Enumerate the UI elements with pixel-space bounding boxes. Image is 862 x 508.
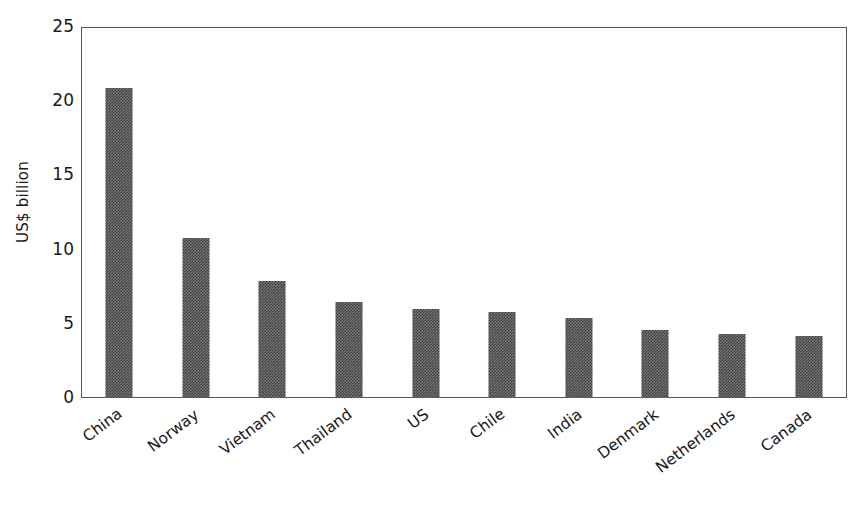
bar[interactable] bbox=[719, 334, 746, 398]
x-tick-label: Netherlands bbox=[653, 406, 738, 476]
x-tick-label: Denmark bbox=[595, 406, 662, 462]
bar-chart: US$ billion 0510152025 ChinaNorwayVietna… bbox=[0, 0, 862, 508]
x-tick-label: Vietnam bbox=[217, 406, 278, 458]
bar[interactable] bbox=[642, 330, 669, 398]
x-tick-label: China bbox=[80, 406, 125, 445]
bar[interactable] bbox=[412, 309, 439, 398]
x-tick-label: India bbox=[545, 406, 585, 442]
x-axis-tick-labels: ChinaNorwayVietnamThailandUSChileIndiaDe… bbox=[0, 0, 862, 110]
y-tick-label: 0 bbox=[0, 389, 74, 406]
x-tick-label: Thailand bbox=[292, 406, 355, 459]
y-tick-label: 10 bbox=[0, 241, 74, 258]
x-tick-label: Canada bbox=[758, 406, 815, 454]
x-tick-label: US bbox=[405, 406, 432, 432]
y-tick-label: 15 bbox=[0, 166, 74, 183]
bar[interactable] bbox=[106, 88, 133, 398]
bar[interactable] bbox=[259, 281, 286, 398]
bar[interactable] bbox=[336, 302, 363, 398]
bar[interactable] bbox=[795, 336, 822, 398]
x-tick-label: Norway bbox=[145, 406, 202, 454]
y-tick-label: 5 bbox=[0, 315, 74, 332]
bar[interactable] bbox=[489, 312, 516, 398]
x-tick-label: Chile bbox=[467, 406, 508, 442]
bar[interactable] bbox=[182, 238, 209, 398]
bar[interactable] bbox=[565, 318, 592, 398]
